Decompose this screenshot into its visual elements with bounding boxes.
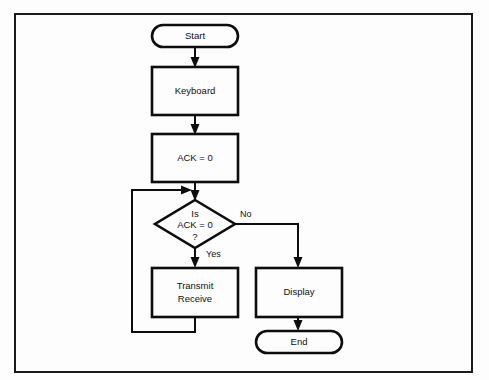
- node-ack-init[interactable]: ACK = 0: [152, 134, 238, 182]
- start-label: Start: [185, 30, 205, 41]
- ack-init-label: ACK = 0: [177, 152, 213, 163]
- node-transmit-receive[interactable]: Transmit Receive: [152, 268, 238, 317]
- connector-display-to-end: [294, 317, 303, 331]
- keyboard-label: Keyboard: [175, 85, 216, 96]
- connector-decision-no: No: [235, 209, 303, 268]
- transmit-receive-label-line2: Receive: [178, 293, 212, 304]
- decision-label-line2: ACK = 0: [177, 219, 213, 230]
- transmit-receive-label-line1: Transmit: [177, 280, 214, 291]
- node-decision-ack[interactable]: Is ACK = 0 ?: [155, 200, 235, 248]
- flowchart-canvas: Yes No Start Keyboard ACK = 0: [0, 0, 489, 380]
- decision-label-line1: Is: [191, 208, 199, 219]
- node-end[interactable]: End: [256, 331, 342, 353]
- flowchart-diagram: Yes No Start Keyboard ACK = 0: [0, 0, 489, 380]
- connector-ack-to-decision: [191, 182, 200, 201]
- connector-start-to-keyboard: [191, 47, 200, 68]
- edge-label-yes: Yes: [206, 249, 221, 259]
- node-display[interactable]: Display: [256, 268, 342, 317]
- connector-keyboard-to-ack: [191, 115, 200, 135]
- node-start[interactable]: Start: [152, 25, 238, 47]
- connector-decision-yes: Yes: [191, 248, 222, 268]
- node-keyboard[interactable]: Keyboard: [152, 67, 238, 115]
- display-label: Display: [283, 286, 314, 297]
- decision-label-line3: ?: [192, 231, 197, 242]
- edge-label-no: No: [240, 209, 252, 219]
- end-label: End: [291, 336, 308, 347]
